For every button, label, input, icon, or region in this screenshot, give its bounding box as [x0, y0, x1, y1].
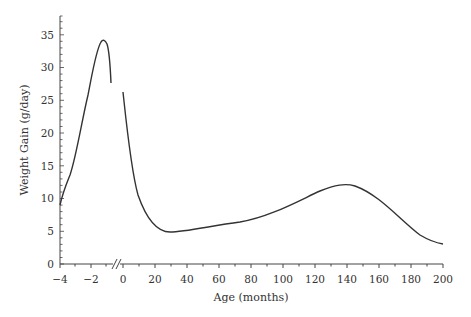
svg-text:200: 200 [433, 273, 453, 285]
svg-text:25: 25 [41, 94, 54, 106]
x-axis [60, 259, 443, 269]
y-axis [60, 16, 64, 264]
svg-text:100: 100 [273, 273, 293, 285]
y-tick-labels: 0 5 10 15 20 25 30 35 [41, 29, 54, 270]
svg-text:10: 10 [41, 192, 54, 204]
svg-text:20: 20 [41, 127, 54, 139]
postnatal-curve [123, 92, 443, 244]
svg-text:0: 0 [120, 273, 127, 285]
svg-text:−2: −2 [83, 273, 98, 285]
x-axis-title: Age (months) [213, 291, 289, 304]
svg-text:160: 160 [369, 273, 389, 285]
x-tick-labels: −4 −2 0 20 40 60 80 100 120 140 160 180 … [52, 273, 453, 285]
svg-text:120: 120 [305, 273, 325, 285]
svg-text:40: 40 [180, 273, 193, 285]
svg-text:−4: −4 [52, 273, 68, 285]
svg-text:80: 80 [244, 273, 257, 285]
svg-text:0: 0 [47, 258, 54, 270]
svg-text:60: 60 [212, 273, 225, 285]
svg-text:35: 35 [41, 29, 54, 41]
svg-text:15: 15 [41, 160, 54, 172]
svg-text:20: 20 [148, 273, 161, 285]
svg-text:180: 180 [401, 273, 421, 285]
svg-text:140: 140 [337, 273, 357, 285]
svg-text:5: 5 [47, 225, 54, 237]
svg-text:30: 30 [41, 61, 54, 73]
prenatal-curve [60, 40, 111, 205]
y-axis-title: Weight Gain (g/day) [18, 84, 31, 195]
weight-gain-chart: 0 5 10 15 20 25 30 35 Weight Gain (g/day… [0, 0, 471, 317]
